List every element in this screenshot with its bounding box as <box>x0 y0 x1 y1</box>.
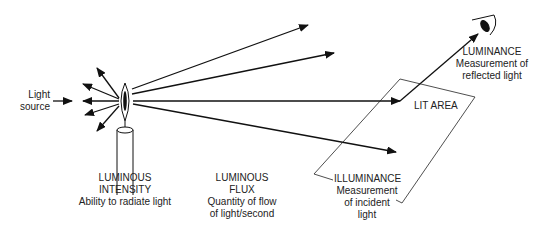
light-source-line1: Light <box>20 89 50 101</box>
lu-desc1: Measurement of <box>452 58 532 70</box>
luminance-label: LUMINANCE Measurement of reflected light <box>452 46 532 82</box>
eye-icon <box>472 15 496 35</box>
light-source-label: Light source <box>20 89 50 113</box>
il-desc2: of incident <box>334 197 400 209</box>
lu-title: LUMINANCE <box>452 46 532 58</box>
lf-desc1: Quantity of flow <box>202 196 282 208</box>
lf-desc2: of light/second <box>202 208 282 220</box>
lf-title1: LUMINOUS <box>202 172 282 184</box>
il-title: ILLUMINANCE <box>334 173 400 185</box>
li-title1: LUMINOUS <box>78 172 172 184</box>
il-desc3: light <box>334 209 400 221</box>
li-desc: Ability to radiate light <box>78 196 172 208</box>
lu-desc2: reflected light <box>452 70 532 82</box>
light-source-line2: source <box>20 101 50 113</box>
illuminance-label: ILLUMINANCE Measurement of incident ligh… <box>334 173 400 221</box>
il-desc1: Measurement <box>334 185 400 197</box>
li-title2: INTENSITY <box>78 184 172 196</box>
luminous-flux-label: LUMINOUS FLUX Quantity of flow of light/… <box>202 172 282 220</box>
lf-title2: FLUX <box>202 184 282 196</box>
lit-area-label: LIT AREA <box>414 100 458 112</box>
luminous-intensity-label: LUMINOUS INTENSITY Ability to radiate li… <box>78 172 172 208</box>
